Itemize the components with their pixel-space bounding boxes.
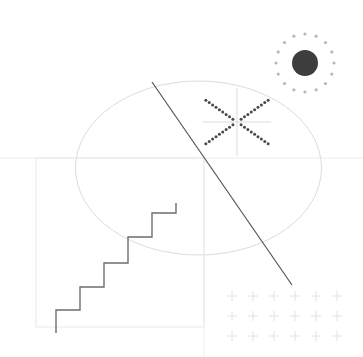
plus-icon xyxy=(332,311,342,321)
plus-icon xyxy=(332,331,342,341)
plus-icon xyxy=(227,291,237,301)
plus-icon xyxy=(290,291,300,301)
sun-halo-dot xyxy=(274,61,277,64)
plus-icon xyxy=(290,311,300,321)
asterisk-dot xyxy=(243,126,246,129)
plus-icon xyxy=(311,311,321,321)
asterisk-dot xyxy=(218,108,221,111)
sun-disc xyxy=(292,50,318,76)
asterisk-dot xyxy=(250,111,253,114)
artwork-canvas xyxy=(0,0,363,357)
asterisk-dot xyxy=(228,126,231,129)
asterisk-dot xyxy=(218,133,221,136)
sun-halo-dot xyxy=(277,50,280,53)
asterisk-dot xyxy=(240,123,243,126)
asterisk-diagonal-spoke xyxy=(204,123,234,145)
asterisk-dot xyxy=(246,128,249,131)
asterisk-dot xyxy=(253,108,256,111)
composition-svg xyxy=(0,0,363,357)
plus-icon xyxy=(311,291,321,301)
asterisk-dot xyxy=(263,101,266,104)
asterisk-diagonal-spoke xyxy=(204,99,234,121)
staircase-shape xyxy=(56,203,176,333)
asterisk-dot xyxy=(263,140,266,143)
asterisk-dot xyxy=(243,115,246,118)
sun-halo-dot xyxy=(332,61,335,64)
asterisk-group xyxy=(203,88,271,156)
asterisk-dot xyxy=(225,128,228,131)
square-shape xyxy=(36,158,204,327)
asterisk-dot xyxy=(240,118,243,121)
sun-halo-dot xyxy=(324,41,327,44)
sun-halo-dot xyxy=(283,82,286,85)
plus-icon xyxy=(332,291,342,301)
asterisk-dot xyxy=(267,142,270,145)
asterisk-diagonal-spoke xyxy=(240,123,270,145)
plus-icon xyxy=(290,331,300,341)
sun-halo-dot xyxy=(277,73,280,76)
asterisk-diagonal-spoke xyxy=(240,99,270,121)
asterisk-dot xyxy=(256,135,259,138)
asterisk-dot xyxy=(204,99,207,102)
sun-halo-dot xyxy=(315,88,318,91)
asterisk-dot xyxy=(225,113,228,116)
plus-icon xyxy=(227,331,237,341)
asterisk-dot xyxy=(211,103,214,106)
asterisk-dot xyxy=(208,140,211,143)
plus-icon xyxy=(248,331,258,341)
asterisk-dot xyxy=(260,103,263,106)
asterisk-dot xyxy=(246,113,249,116)
plus-grid-group xyxy=(227,291,342,341)
plus-icon xyxy=(248,291,258,301)
sun-halo-dot xyxy=(330,73,333,76)
plus-icon xyxy=(227,311,237,321)
plus-icon xyxy=(269,311,279,321)
sun-halo-dot xyxy=(292,35,295,38)
sun-halo-dot xyxy=(303,90,306,93)
asterisk-dot xyxy=(211,138,214,141)
asterisk-dot xyxy=(221,111,224,114)
sun-halo-dot xyxy=(283,41,286,44)
asterisk-dot xyxy=(215,106,218,109)
asterisk-dot xyxy=(221,130,224,133)
asterisk-dot xyxy=(228,115,231,118)
sun-halo-dot xyxy=(315,35,318,38)
sun-group xyxy=(274,32,335,93)
plus-icon xyxy=(248,311,258,321)
asterisk-dot xyxy=(231,118,234,121)
plus-icon xyxy=(311,331,321,341)
sun-halo-dot xyxy=(292,88,295,91)
asterisk-dot xyxy=(260,138,263,141)
sun-halo-dot xyxy=(324,82,327,85)
asterisk-dot xyxy=(250,130,253,133)
asterisk-dot xyxy=(208,101,211,104)
asterisk-dot xyxy=(204,142,207,145)
asterisk-dot xyxy=(267,99,270,102)
plus-icon xyxy=(269,291,279,301)
plus-icon xyxy=(269,331,279,341)
asterisk-dot xyxy=(256,106,259,109)
sun-halo-dot xyxy=(303,32,306,35)
asterisk-dot xyxy=(253,133,256,136)
sun-halo-dot xyxy=(330,50,333,53)
ellipse-shape xyxy=(76,81,322,255)
asterisk-dot xyxy=(215,135,218,138)
asterisk-dot xyxy=(231,123,234,126)
